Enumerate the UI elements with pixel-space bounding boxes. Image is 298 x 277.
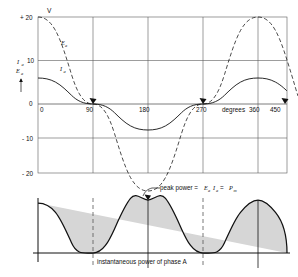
y-tick-label-minus-20: - 20 bbox=[22, 170, 33, 177]
y-tick-label-minus-10: - 10 bbox=[22, 135, 33, 142]
y-axis-label-emf: E bbox=[15, 67, 20, 74]
x-tick-label-180: 180 bbox=[139, 106, 150, 113]
peak-power-equals: = bbox=[220, 184, 224, 191]
y-tick-label-10: 10 bbox=[27, 57, 35, 64]
x-tick-label-360: 360 bbox=[249, 106, 260, 113]
x-axis-unit-label: degrees bbox=[222, 106, 245, 114]
x-tick-label-450: 450 bbox=[270, 106, 281, 113]
x-tick-label-0: 0 bbox=[40, 106, 44, 113]
y-axis-unit-label: V bbox=[47, 7, 52, 14]
y-tick-label-20: + 20 bbox=[20, 14, 33, 21]
power-chart-caption: instantaneous power of phase A bbox=[97, 258, 187, 266]
peak-power-term-pm-subscript: m bbox=[234, 188, 237, 193]
x-tick-label-270: 270 bbox=[196, 106, 207, 113]
peak-power-term-pm: P bbox=[228, 184, 233, 191]
y-tick-label-0: 0 bbox=[29, 100, 33, 107]
peak-power-prefix: peak power = bbox=[160, 184, 198, 192]
x-tick-label-90: 90 bbox=[86, 106, 94, 113]
figure-container: V + 20 10 0 - 10 - 20 I a E a 0 90 180 2… bbox=[0, 0, 298, 277]
